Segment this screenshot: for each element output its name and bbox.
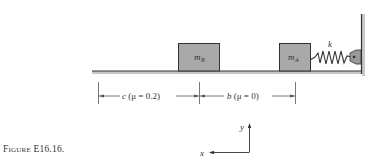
y-axis-arrow-icon <box>248 123 251 128</box>
spring: k <box>310 39 361 64</box>
diagram-canvas: m B m A k c (μ = 0.2) b (μ = 0) <box>0 0 380 167</box>
block-m-b-subscript: B <box>201 57 205 63</box>
block-m-a-subscript: A <box>294 57 299 63</box>
block-m-b-label: m <box>194 52 201 62</box>
wall-shading <box>362 14 365 76</box>
dimension-c-label: c (μ = 0.2) <box>122 91 160 101</box>
y-axis-label: y <box>239 122 244 132</box>
figure-caption-number: E16.16. <box>33 144 64 154</box>
block-m-a: m A <box>280 44 311 72</box>
block-m-a-label: m <box>288 52 295 62</box>
coordinate-axes: y x <box>199 122 251 158</box>
x-axis-label: x <box>199 148 204 158</box>
x-axis-arrow-icon <box>209 151 214 154</box>
figure-caption-prefix: Figure <box>3 144 31 154</box>
dimension-b-label: b (μ = 0) <box>227 91 259 101</box>
figure-caption: Figure E16.16. <box>3 144 64 154</box>
dimension-lines: c (μ = 0.2) b (μ = 0) <box>99 82 296 104</box>
spring-mount <box>350 50 361 64</box>
block-m-b: m B <box>179 44 220 72</box>
spring-constant-label: k <box>328 39 333 49</box>
